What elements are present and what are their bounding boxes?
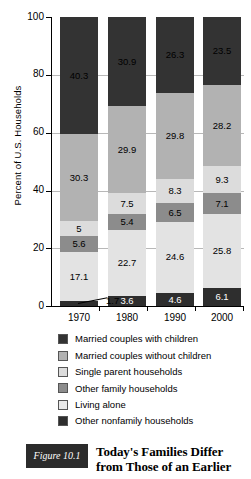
legend-swatch-icon bbox=[58, 367, 68, 377]
bar-segment-married-with-children[interactable]: 40.3 bbox=[60, 17, 98, 133]
bar-segment-single-parent[interactable]: 7.5 bbox=[108, 193, 146, 215]
legend-item-label: Single parent households bbox=[75, 367, 182, 377]
legend-swatch-icon bbox=[58, 383, 68, 393]
figure-title-line-2: from Those of an Earlier bbox=[96, 459, 231, 474]
chart-plot-area: Percent of U.S. Households 100 80 60 40 … bbox=[0, 0, 251, 330]
bar-segment-living-alone[interactable]: 22.7 bbox=[108, 230, 146, 296]
bar-segment-married-without-children[interactable]: 30.3 bbox=[60, 134, 98, 222]
bar-segment-other-family[interactable]: 7.1 bbox=[203, 193, 241, 214]
x-tick-label-2000: 2000 bbox=[198, 312, 246, 323]
x-tick-mark bbox=[99, 306, 100, 311]
legend-item-living-alone[interactable]: Living alone bbox=[58, 397, 248, 413]
bar-segment-other-family[interactable]: 5.4 bbox=[108, 214, 146, 230]
bar-segment-other-nonfamily[interactable]: 6.1 bbox=[203, 288, 241, 306]
figure-caption: Figure 10.1 Today's Families Differ from… bbox=[26, 444, 231, 475]
bar-group: 1.7 17.1 5.6 5 30.3 40.3 bbox=[52, 17, 244, 306]
legend-item-label: Other family households bbox=[75, 384, 177, 394]
bar-segment-single-parent[interactable]: 8.3 bbox=[156, 179, 194, 203]
y-tick-label: 20 bbox=[18, 243, 44, 253]
figure-title: Today's Families Differ from Those of an… bbox=[96, 444, 231, 475]
legend-swatch-icon bbox=[58, 416, 68, 426]
x-tick-label-1990: 1990 bbox=[151, 312, 199, 323]
bar-segment-other-family[interactable]: 6.5 bbox=[156, 203, 194, 222]
figure-container: Percent of U.S. Households 100 80 60 40 … bbox=[0, 0, 251, 479]
legend-item-label: Married couples without children bbox=[75, 351, 211, 361]
bar-segment-single-parent[interactable]: 9.3 bbox=[203, 166, 241, 193]
figure-number-badge: Figure 10.1 bbox=[26, 444, 88, 468]
bar-segment-living-alone[interactable]: 25.8 bbox=[203, 214, 241, 289]
legend-item-single-parent-households[interactable]: Single parent households bbox=[58, 364, 248, 380]
bar-segment-living-alone[interactable]: 24.6 bbox=[156, 222, 194, 293]
x-tick-label-1970: 1970 bbox=[55, 312, 103, 323]
bar-2000[interactable]: 6.1 25.8 7.1 9.3 28.2 23.5 bbox=[203, 17, 241, 306]
bar-segment-other-nonfamily[interactable]: 4.6 bbox=[156, 293, 194, 306]
y-tick-label: 0 bbox=[18, 301, 44, 311]
bar-segment-married-without-children[interactable]: 28.2 bbox=[203, 85, 241, 166]
legend-item-other-nonfamily-households[interactable]: Other nonfamily households bbox=[58, 413, 248, 429]
y-tick-label: 40 bbox=[18, 185, 44, 195]
x-tick-mark bbox=[147, 306, 148, 311]
legend-item-label: Other nonfamily households bbox=[75, 416, 193, 426]
legend-item-other-family-households[interactable]: Other family households bbox=[58, 380, 248, 396]
x-tick-mark bbox=[195, 306, 196, 311]
bar-1970[interactable]: 1.7 17.1 5.6 5 30.3 40.3 bbox=[60, 17, 98, 306]
legend-item-married-without-children[interactable]: Married couples without children bbox=[58, 347, 248, 363]
bar-1980[interactable]: 3.6 22.7 5.4 7.5 29.9 30.9 bbox=[108, 17, 146, 306]
bar-segment-living-alone[interactable]: 17.1 bbox=[60, 252, 98, 301]
legend-swatch-icon bbox=[58, 400, 68, 410]
figure-title-line-1: Today's Families Differ bbox=[96, 444, 231, 459]
y-tick-label: 80 bbox=[18, 69, 44, 79]
legend-item-label: Living alone bbox=[75, 400, 126, 410]
bar-segment-single-parent[interactable]: 5 bbox=[60, 221, 98, 235]
bar-segment-other-nonfamily[interactable]: 1.7 bbox=[60, 301, 98, 306]
bar-segment-married-without-children[interactable]: 29.9 bbox=[108, 106, 146, 192]
bar-segment-married-with-children[interactable]: 30.9 bbox=[108, 17, 146, 106]
legend-swatch-icon bbox=[58, 334, 68, 344]
chart-legend: Married couples with children Married co… bbox=[58, 331, 248, 429]
x-tick-mark bbox=[243, 306, 244, 311]
legend-item-married-with-children[interactable]: Married couples with children bbox=[58, 331, 248, 347]
y-tick-label: 60 bbox=[18, 127, 44, 137]
bar-segment-other-family[interactable]: 5.6 bbox=[60, 236, 98, 252]
legend-swatch-icon bbox=[58, 351, 68, 361]
bar-segment-married-with-children[interactable]: 26.3 bbox=[156, 17, 194, 93]
y-tick-label: 100 bbox=[18, 12, 44, 22]
legend-item-label: Married couples with children bbox=[75, 334, 198, 344]
bar-1990[interactable]: 4.6 24.6 6.5 8.3 29.8 26.3 bbox=[156, 17, 194, 306]
x-tick-label-1980: 1980 bbox=[103, 312, 151, 323]
bar-segment-married-with-children[interactable]: 23.5 bbox=[203, 17, 241, 85]
bar-segment-married-without-children[interactable]: 29.8 bbox=[156, 93, 194, 179]
